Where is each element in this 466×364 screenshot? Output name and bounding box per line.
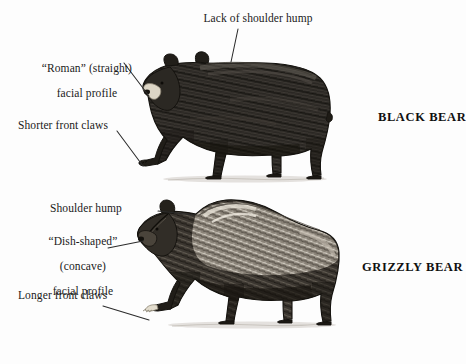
label-shorter-front-claws: Shorter front claws [18,119,148,132]
label-lack-of-shoulder-hump: Lack of shoulder hump [178,12,338,25]
label-shoulder-hump: Shoulder hump [50,202,162,215]
label-longer-front-claws: Longer front claws [18,289,150,302]
label-dish-line1: “Dish-shaped” [48,235,117,247]
species-label-black-bear: BLACK BEAR [378,110,466,125]
species-label-grizzly-bear: GRIZZLY BEAR [362,260,463,275]
label-roman-line1: “Roman” (straight) [42,62,132,74]
label-dish-line2: (concave) [60,260,106,272]
label-roman-line2: facial profile [57,87,117,99]
label-roman-facial-profile: “Roman” (straight) facial profile [14,49,142,112]
